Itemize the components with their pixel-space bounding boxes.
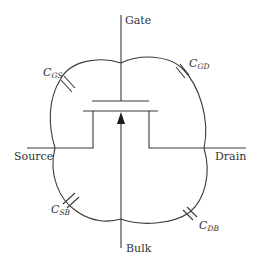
mosfet-capacitance-diagram: Gate Source Drain Bulk CGS CGD CSB CDB [0,0,268,262]
drain-wire [149,111,246,148]
cgd-label: CGD [189,57,209,71]
cgs-capacitor-icon [61,76,75,92]
cgs-label: CGS [43,66,63,80]
cdb-arc [121,148,207,223]
bulk-arrow-icon [117,112,125,124]
diagram-canvas: Gate Source Drain Bulk CGS CGD CSB CDB [0,0,268,262]
csb-label: CSB [51,203,71,217]
bulk-label: Bulk [126,242,152,255]
source-label: Source [14,150,53,163]
cgd-capacitor-icon [176,64,189,78]
cgd-arc [121,57,206,148]
drain-label: Drain [215,150,246,163]
cdb-capacitor-icon [183,207,197,220]
source-wire [27,111,93,148]
cdb-label: CDB [199,219,219,233]
gate-label: Gate [125,14,151,27]
